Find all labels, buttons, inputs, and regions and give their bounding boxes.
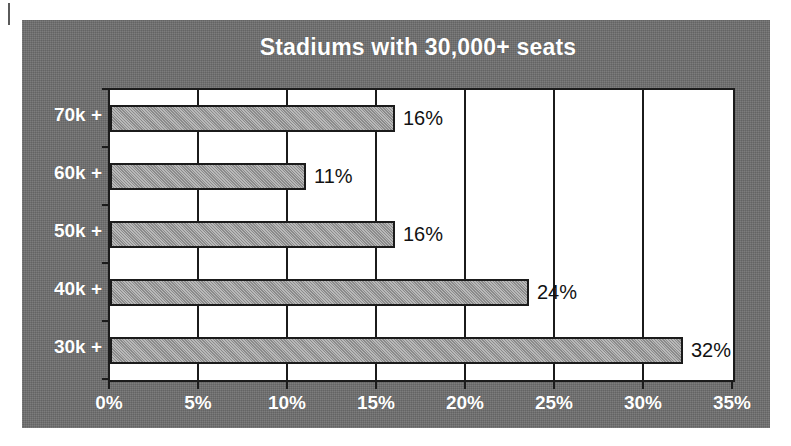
plot-area: 16% 11% 16% 24% 32% [108,88,735,382]
x-axis-tick [553,380,555,389]
chart-title: Stadiums with 30,000+ seats [108,34,728,61]
chart-panel: Stadiums with 30,000+ seats 70k + 60k + … [22,20,770,428]
bar-row-50k: 16% [110,206,733,264]
bar-row-30k: 32% [110,322,733,380]
x-axis-label-0: 0% [74,392,144,414]
bar-value-label-50k: 16% [403,222,443,246]
x-axis-label-15: 15% [341,392,411,414]
bar-value-label-40k: 24% [537,280,577,304]
bar-40k [110,279,529,306]
x-axis-tick [286,380,288,389]
x-axis-tick [108,380,110,389]
y-axis-label-50k: 50k + [28,220,102,242]
x-axis-tick [375,380,377,389]
x-axis-label-20: 20% [430,392,500,414]
bar-30k [110,337,683,364]
bar-row-60k: 11% [110,148,733,206]
x-axis-label-25: 25% [519,392,589,414]
x-axis-tick [642,380,644,389]
y-axis-label-40k: 40k + [28,278,102,300]
y-axis-label-30k: 30k + [28,336,102,358]
x-axis-tick [464,380,466,389]
x-axis-label-35: 35% [697,392,767,414]
bar-row-40k: 24% [110,264,733,322]
x-axis-tick [731,380,733,389]
x-axis-tick [197,380,199,389]
x-axis-label-10: 10% [252,392,322,414]
x-axis-label-30: 30% [608,392,678,414]
scan-artifact-mark [8,3,10,25]
bar-value-label-30k: 32% [691,338,731,362]
bar-70k [110,105,395,132]
bar-value-label-60k: 11% [314,164,353,188]
bar-row-70k: 16% [110,90,733,148]
y-axis-label-group: 70k + 60k + 50k + 40k + 30k + [22,88,102,378]
x-axis-label-5: 5% [163,392,233,414]
bar-50k [110,221,395,248]
bar-value-label-70k: 16% [403,106,443,130]
y-axis-label-60k: 60k + [28,162,102,184]
bar-60k [110,163,306,190]
y-axis-label-70k: 70k + [28,104,102,126]
